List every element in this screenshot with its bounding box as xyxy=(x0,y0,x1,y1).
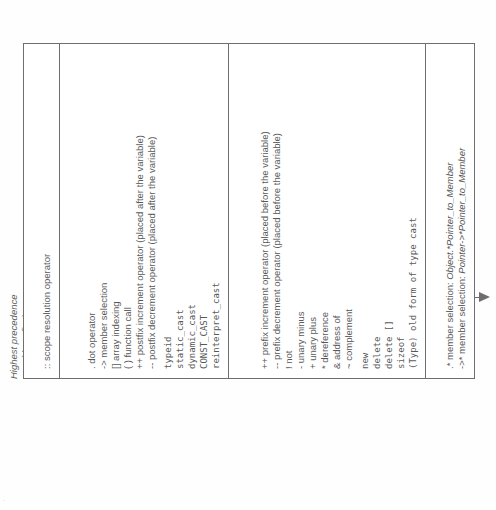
group-pointer-to-member: .* member selection: Object.*Pointer_to_… xyxy=(444,142,468,378)
group-unary-operators: ++ prefix increment operator (placed bef… xyxy=(259,125,419,378)
document-page: Highest precedence (done first) Lower pr… xyxy=(0,0,496,510)
operator-entry: (Type) old form of type cast xyxy=(407,131,419,369)
group-scope-resolution: :: scope resolution operator xyxy=(41,248,53,378)
operator-entry: reinterpret_cast xyxy=(210,135,222,369)
operator-entry: -- postfix decrement operator (placed af… xyxy=(146,135,158,369)
operator-entry-prefix: ->* member selection: xyxy=(456,274,467,369)
operator-entry: ! not xyxy=(283,131,295,369)
operator-entry: CONST_CAST xyxy=(198,135,210,369)
operator-entry: delete xyxy=(371,131,383,369)
operator-entry: ( ) function call xyxy=(122,135,134,369)
operator-entry: typeid xyxy=(162,135,174,369)
scan-artifact: · xyxy=(3,497,7,501)
operator-entry: [] array indexing xyxy=(110,135,122,369)
operator-entry: . dot operator xyxy=(86,135,98,369)
operator-entry: -> member selection xyxy=(98,135,110,369)
operator-entry: ->* member selection: Pointer->*Pointer_… xyxy=(456,148,468,369)
table-row: .* member selection: Object.*Pointer_to_… xyxy=(426,44,474,378)
operator-entry: sizeof xyxy=(395,131,407,369)
table-row: :: scope resolution operator xyxy=(24,44,60,378)
operator-entry: ++ prefix increment operator (placed bef… xyxy=(259,131,271,369)
operator-entry: - unary minus xyxy=(295,131,307,369)
operator-entry: -- prefix decrement operator (placed bef… xyxy=(271,131,283,369)
table-row: . dot operator -> member selection [] ar… xyxy=(60,44,229,378)
operator-entry-example: Object.*Pointer_to_Member xyxy=(444,163,455,280)
operator-entry-prefix: .* member selection: xyxy=(444,280,455,369)
group-postfix-and-member-access: . dot operator -> member selection [] ar… xyxy=(86,129,222,378)
operator-entry: & address of xyxy=(331,131,343,369)
operator-entry: + unary plus xyxy=(307,131,319,369)
operator-entry: .* member selection: Object.*Pointer_to_… xyxy=(444,148,456,369)
operator-entry: static_cast xyxy=(174,135,186,369)
operator-entry: new xyxy=(359,131,371,369)
rotated-content-root: Highest precedence (done first) Lower pr… xyxy=(0,0,496,510)
operator-entry: ++ postfix increment operator (placed af… xyxy=(134,135,146,369)
operator-entry: :: scope resolution operator xyxy=(41,254,53,369)
operator-entry-example: Pointer->*Pointer_to_Member xyxy=(456,148,467,274)
operator-precedence-table: :: scope resolution operator . dot opera… xyxy=(23,43,475,379)
operator-entry: * dereference xyxy=(319,131,331,369)
arrow-head-icon xyxy=(479,293,490,303)
operator-entry: dynamic_cast xyxy=(186,135,198,369)
operator-entry: delete [] xyxy=(383,131,395,369)
table-row: ++ prefix increment operator (placed bef… xyxy=(229,44,426,378)
highest-precedence-label-line1: Highest precedence xyxy=(8,295,20,380)
operator-entry: ~ complement xyxy=(343,131,355,369)
